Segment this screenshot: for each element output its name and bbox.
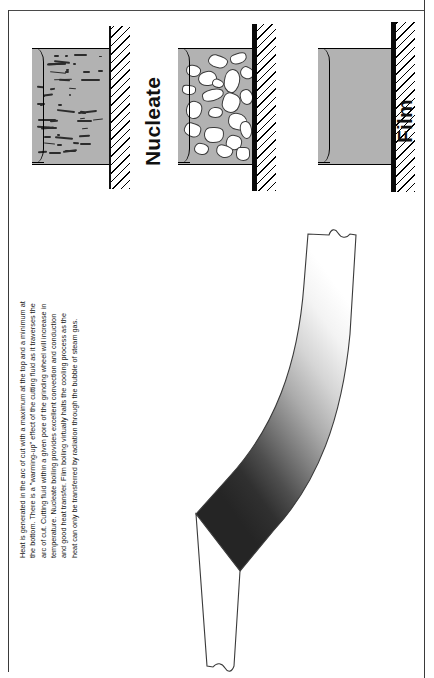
micro-bubble-icon (82, 128, 89, 130)
vapour-bubble-icon (236, 147, 250, 161)
caption-text: Heat is generated in the arc of cut with… (18, 300, 80, 558)
micro-bubble-icon (57, 104, 61, 106)
fluid-left-lip (318, 48, 330, 163)
micro-bubble-icon (57, 109, 75, 113)
micro-bubble-icon (77, 120, 92, 122)
micro-bubble-icon (63, 149, 77, 153)
hatch-pattern-icon (111, 26, 130, 189)
micro-bubble-icon (69, 87, 76, 89)
vapour-bubble-icon (203, 126, 224, 143)
micro-bubble-icon (43, 142, 54, 145)
micro-bubble-icon (50, 120, 58, 122)
micro-bubble-icon (79, 143, 90, 145)
micro-bubble-icon (55, 136, 73, 140)
vapour-bubble-icon (207, 53, 230, 70)
micro-bubble-icon (69, 94, 71, 96)
vapour-bubble-icon (193, 142, 209, 156)
micro-bubble-icon (98, 70, 103, 72)
panel-convection (20, 18, 130, 203)
micro-bubble-icon (48, 63, 66, 65)
micro-bubble-icon (54, 55, 59, 57)
micro-bubble-icon (74, 53, 87, 55)
vapour-bubble-icon (229, 50, 249, 66)
caption-block: Heat is generated in the arc of cut with… (18, 300, 158, 558)
micro-bubble-icon (79, 135, 90, 137)
panel-nucleate (166, 18, 276, 203)
panel-label-nucleate: Nucleate (141, 77, 165, 166)
micro-bubble-icon (73, 142, 79, 144)
boiling-regime-panels: Nucleate Film (8, 18, 424, 203)
arc-of-cut-band (178, 214, 434, 678)
micro-bubble-icon (57, 143, 62, 145)
micro-bubble-icon (50, 71, 66, 74)
hatch-pattern-icon (257, 24, 276, 191)
figure-page: Nucleate Film Heat is generated in the a… (0, 0, 434, 678)
micro-bubble-icon (72, 63, 75, 65)
micro-bubble-icon (80, 79, 99, 81)
fluid-left-lip (178, 48, 190, 163)
micro-bubble-icon (99, 56, 102, 58)
micro-bubble-icon (83, 71, 90, 73)
band-heated-section (196, 230, 356, 571)
panel-label-film: Film (393, 99, 417, 143)
micro-bubble-icon (50, 88, 55, 91)
page-frame-top (8, 10, 424, 11)
micro-bubble-icon (65, 54, 68, 56)
vapour-bubble-icon (239, 88, 252, 106)
fluid-left-lip (32, 48, 44, 163)
vapour-bubble-icon (207, 106, 223, 119)
micro-bubble-icon (49, 151, 61, 153)
micro-bubble-icon (93, 119, 103, 122)
micro-bubble-icon (44, 136, 51, 138)
